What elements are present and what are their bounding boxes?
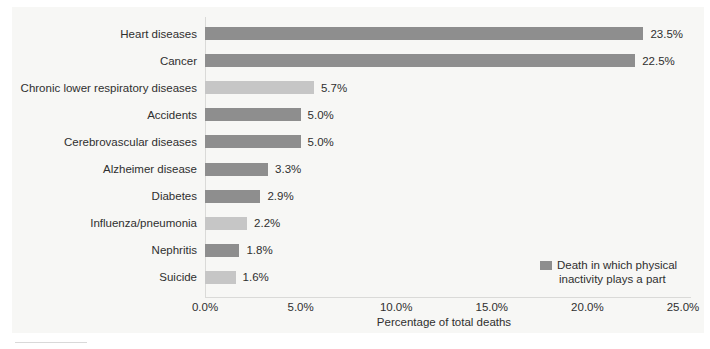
legend: Death in which physical inactivity plays…	[540, 259, 677, 286]
x-tick-label: 10.0%	[380, 301, 413, 313]
bar	[205, 27, 643, 40]
category-label: Heart diseases	[17, 28, 205, 40]
bar-row: Cerebrovascular diseases 5.0%	[17, 128, 683, 155]
category-label: Accidents	[17, 109, 205, 121]
value-label: 5.0%	[308, 136, 334, 148]
bar	[205, 108, 301, 121]
value-label: 2.9%	[267, 190, 293, 202]
bar-row: Diabetes 2.9%	[17, 183, 683, 210]
bar	[205, 81, 314, 94]
x-axis-line	[205, 297, 691, 298]
bar	[205, 54, 635, 67]
x-axis-label: Percentage of total deaths	[205, 316, 683, 328]
legend-swatch-icon	[540, 261, 552, 270]
bar	[205, 163, 268, 176]
bar-row: Accidents 5.0%	[17, 101, 683, 128]
legend-label-line2: inactivity plays a part	[559, 273, 677, 287]
page-rule-divider	[15, 342, 87, 343]
value-label: 1.6%	[243, 271, 269, 283]
category-label: Alzheimer disease	[17, 163, 205, 175]
category-label: Cerebrovascular diseases	[17, 136, 205, 148]
bar-chart: Heart diseases 23.5% Cancer 22.5% Chroni…	[0, 0, 710, 349]
category-label: Diabetes	[17, 190, 205, 202]
bar	[205, 190, 260, 203]
x-tick-label: 5.0%	[287, 301, 313, 313]
bar-row: Influenza/pneumonia 2.2%	[17, 210, 683, 237]
bar	[205, 271, 236, 284]
value-label: 5.7%	[321, 82, 347, 94]
x-tick-label: 25.0%	[667, 301, 700, 313]
category-label: Chronic lower respiratory diseases	[17, 82, 205, 94]
x-axis-ticks: 0.0%5.0%10.0%15.0%20.0%25.0%	[205, 301, 683, 315]
x-tick-label: 15.0%	[475, 301, 508, 313]
x-tick-label: 20.0%	[571, 301, 604, 313]
value-label: 5.0%	[308, 109, 334, 121]
bar-row: Cancer 22.5%	[17, 47, 683, 74]
x-tick-label: 0.0%	[192, 301, 218, 313]
value-label: 22.5%	[642, 55, 675, 67]
bar	[205, 244, 239, 257]
figure-canvas: Heart diseases 23.5% Cancer 22.5% Chroni…	[0, 0, 710, 349]
bar	[205, 135, 301, 148]
bar-row: Chronic lower respiratory diseases 5.7%	[17, 74, 683, 101]
value-label: 3.3%	[275, 163, 301, 175]
category-label: Suicide	[17, 271, 205, 283]
legend-label-line1: Death in which physical	[557, 259, 677, 273]
category-label: Influenza/pneumonia	[17, 217, 205, 229]
category-label: Nephritis	[17, 244, 205, 256]
value-label: 1.8%	[246, 244, 272, 256]
bar-row: Alzheimer disease 3.3%	[17, 155, 683, 182]
chart-rows: Heart diseases 23.5% Cancer 22.5% Chroni…	[17, 20, 683, 291]
category-label: Cancer	[17, 55, 205, 67]
bar-row: Heart diseases 23.5%	[17, 20, 683, 47]
value-label: 23.5%	[650, 28, 683, 40]
value-label: 2.2%	[254, 217, 280, 229]
bar	[205, 217, 247, 230]
